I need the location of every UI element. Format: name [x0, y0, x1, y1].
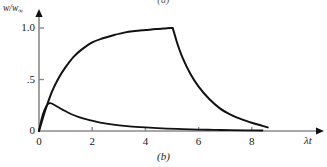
x-axis-arrowhead	[316, 127, 324, 134]
y-axis-label-main: w/w	[3, 3, 18, 13]
x-tick-label: 4	[130, 135, 160, 147]
y-tick-label: .5	[5, 73, 35, 85]
x-tick-label: 2	[77, 135, 107, 147]
data-curve-peaked	[39, 103, 262, 131]
y-tick-label: 1.0	[5, 21, 35, 33]
y-axis-label: w/w∞	[3, 3, 23, 17]
x-tick-label: 0	[24, 135, 54, 147]
figure-caption-a: (a)	[0, 0, 327, 6]
y-axis-label-subscript: ∞	[18, 7, 23, 15]
series-group	[39, 28, 268, 131]
x-tick-label: 8	[237, 135, 267, 147]
axes-group	[35, 9, 324, 135]
figure-caption-b: (b)	[0, 150, 327, 163]
figure-panel-b: (a) w/w∞ λt 0 .5 1.0 0 2 4 6 8 (b)	[0, 0, 327, 167]
y-axis-arrowhead	[35, 9, 42, 17]
x-axis-label: λt	[304, 134, 312, 146]
x-tick-label: 6	[184, 135, 214, 147]
